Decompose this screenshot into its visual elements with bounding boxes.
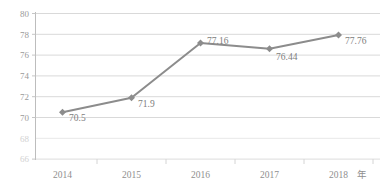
data-label-2015: 71.9 xyxy=(138,99,155,109)
data-label-2014: 70.5 xyxy=(69,113,86,123)
x-tick-label-2018: 2018 xyxy=(329,170,348,180)
data-label-2018: 77.76 xyxy=(345,36,367,46)
y-tick-label-66: 66 xyxy=(20,154,30,164)
y-axis-tick-labels: 80 78 76 74 72 70 68 66 xyxy=(20,9,30,165)
y-tick-label-74: 74 xyxy=(20,71,30,81)
x-tick-label-2017: 2017 xyxy=(260,170,279,180)
data-label-2017: 76.44 xyxy=(276,52,298,62)
x-tick-label-2016: 2016 xyxy=(191,170,210,180)
y-tick-label-76: 76 xyxy=(20,50,30,60)
y-tick-label-70: 70 xyxy=(20,113,30,123)
line-chart-figure: 80 78 76 74 72 70 68 66 xyxy=(0,0,384,190)
y-tick-label-72: 72 xyxy=(20,92,29,102)
y-tick-label-78: 78 xyxy=(20,30,30,40)
x-axis-tick-labels: 2014 2015 2016 2017 2018 年 xyxy=(53,169,367,180)
data-label-2016: 77.16 xyxy=(207,36,229,46)
y-tick-label-80: 80 xyxy=(20,9,30,19)
x-axis-unit-label: 年 xyxy=(357,169,367,180)
y-axis-ticks xyxy=(32,14,36,160)
x-tick-label-2015: 2015 xyxy=(122,170,141,180)
y-tick-label-68: 68 xyxy=(20,134,30,144)
x-tick-label-2014: 2014 xyxy=(53,170,72,180)
chart-canvas: 80 78 76 74 72 70 68 66 xyxy=(0,0,384,190)
